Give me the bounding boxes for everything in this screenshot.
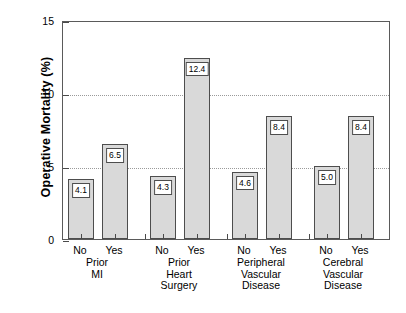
- x-tick-label-yes: Yes: [256, 244, 300, 256]
- x-tick: [115, 234, 116, 239]
- chart-figure: Operative Mortality (%) 051015 4.16.54.3…: [0, 0, 406, 313]
- x-group-label-line: Disease: [288, 280, 398, 292]
- y-tick-10: [63, 95, 69, 96]
- x-group-label-line: Cerebral: [288, 257, 398, 269]
- x-tick: [245, 234, 246, 239]
- x-tick: [327, 234, 328, 239]
- x-tick: [163, 234, 164, 239]
- y-tick-0: [63, 241, 69, 242]
- x-tick-label-yes: Yes: [92, 244, 136, 256]
- y-tick-15: [63, 22, 69, 23]
- x-tick-label-yes: Yes: [338, 244, 382, 256]
- gridline-10: [63, 95, 389, 96]
- bar-value-label: 12.4: [186, 62, 209, 77]
- y-tick-5: [63, 168, 69, 169]
- bar-value-label: 8.4: [352, 120, 370, 135]
- bar: [184, 58, 210, 239]
- y-axis-title: Operative Mortality (%): [39, 17, 53, 237]
- x-tick-minor: [309, 234, 310, 239]
- y-tick-label-15: 15: [14, 15, 54, 27]
- y-tick-label-10: 10: [14, 88, 54, 100]
- x-group-label: CerebralVascularDisease: [288, 257, 398, 292]
- bar-value-label: 4.6: [236, 176, 254, 191]
- bar-value-label: 5.0: [318, 170, 336, 185]
- y-tick-label-0: 0: [14, 234, 54, 246]
- bar-value-label: 4.1: [72, 183, 90, 198]
- x-tick: [279, 234, 280, 239]
- bar-value-label: 6.5: [106, 148, 124, 163]
- y-tick-label-5: 5: [14, 161, 54, 173]
- x-tick-minor: [227, 234, 228, 239]
- bar-value-label: 8.4: [270, 120, 288, 135]
- x-tick: [197, 234, 198, 239]
- x-tick-label-yes: Yes: [174, 244, 218, 256]
- x-tick: [81, 234, 82, 239]
- plot-area: 4.16.54.312.44.68.45.08.4: [62, 21, 390, 240]
- x-tick: [361, 234, 362, 239]
- bar-value-label: 4.3: [154, 180, 172, 195]
- x-tick-minor: [145, 234, 146, 239]
